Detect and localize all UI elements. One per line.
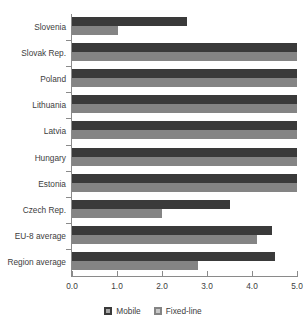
bar-group — [72, 223, 297, 249]
bar-mobile — [72, 252, 275, 261]
bar-fixed-line — [72, 26, 118, 35]
bar-mobile — [72, 226, 272, 235]
bar-mobile — [72, 121, 297, 130]
bar-group — [72, 145, 297, 171]
legend-entry[interactable]: Fixed-line — [154, 306, 202, 316]
bar-mobile — [72, 174, 297, 183]
category-label: Lithuania — [32, 100, 66, 110]
bar-fixed-line — [72, 130, 297, 139]
bar-fixed-line — [72, 235, 257, 244]
x-axis-tick — [162, 271, 163, 277]
chart-legend: MobileFixed-line — [0, 306, 306, 316]
x-axis-tick-label: 3.0 — [195, 281, 219, 291]
x-axis-tick-label: 5.0 — [285, 281, 306, 291]
mobile-swatch-icon — [104, 307, 112, 315]
plot-area — [72, 14, 297, 275]
category-label: Latvia — [44, 126, 66, 136]
legend-entry[interactable]: Mobile — [104, 306, 140, 316]
x-axis-tick — [297, 271, 298, 277]
bar-chart: SloveniaSlovak Rep.PolandLithuaniaLatvia… — [0, 0, 306, 332]
bar-group — [72, 197, 297, 223]
bar-fixed-line — [72, 261, 198, 270]
bar-mobile — [72, 148, 297, 157]
bar-group — [72, 66, 297, 92]
bar-fixed-line — [72, 157, 297, 166]
bar-mobile — [72, 17, 187, 26]
bar-fixed-line — [72, 183, 297, 192]
bar-group — [72, 14, 297, 40]
fixed-line-swatch-icon — [154, 307, 162, 315]
category-label: Hungary — [35, 153, 66, 163]
bar-fixed-line — [72, 78, 297, 87]
bar-fixed-line — [72, 209, 162, 218]
legend-label: Mobile — [116, 306, 140, 316]
bar-fixed-line — [72, 104, 297, 113]
bar-group — [72, 40, 297, 66]
x-axis-tick-label: 4.0 — [240, 281, 264, 291]
bar-fixed-line — [72, 52, 297, 61]
bar-mobile — [72, 69, 297, 78]
bar-mobile — [72, 200, 230, 209]
x-axis-tick-label: 0.0 — [60, 281, 84, 291]
x-axis-tick-label: 1.0 — [105, 281, 129, 291]
category-label: EU-8 average — [15, 231, 66, 241]
bar-group — [72, 118, 297, 144]
bar-mobile — [72, 43, 297, 52]
category-label: Region average — [7, 257, 66, 267]
bar-mobile — [72, 95, 297, 104]
category-label: Czech Rep. — [23, 205, 66, 215]
bar-group — [72, 249, 297, 275]
legend-label: Fixed-line — [166, 306, 202, 316]
category-label: Slovak Rep. — [21, 48, 66, 58]
category-label: Estonia — [38, 179, 66, 189]
x-axis-line — [71, 276, 298, 277]
category-label: Slovenia — [34, 22, 66, 32]
x-axis-tick — [207, 271, 208, 277]
x-axis-tick — [72, 271, 73, 277]
x-axis-tick — [252, 271, 253, 277]
x-axis-tick-label: 2.0 — [150, 281, 174, 291]
bar-group — [72, 171, 297, 197]
bar-group — [72, 92, 297, 118]
x-axis-tick — [117, 271, 118, 277]
category-label: Poland — [40, 74, 66, 84]
